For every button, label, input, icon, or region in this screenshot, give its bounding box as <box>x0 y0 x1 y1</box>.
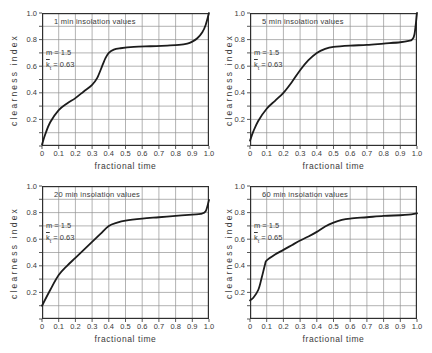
chart-annotation-60min: m = 1.5 kt = 0.65 <box>254 220 282 247</box>
chart-title-1min: 1 min insolation values <box>54 17 136 26</box>
plot-canvas-1min <box>42 13 209 146</box>
chart-60min-insolation: 60 min insolation values m = 1.5 kt = 0.… <box>216 177 432 353</box>
annotation-airmass: m = 1.5 <box>254 220 282 232</box>
y-axis-label-60min: clearness index <box>223 186 235 319</box>
plot-5min: 5 min insolation values m = 1.5 kt = 0.6… <box>250 13 417 146</box>
annotation-mean-clearness: kt = 0.63 <box>46 232 74 247</box>
x-axis-label-60min: fractional time <box>250 334 417 344</box>
k-value: = 0.63 <box>51 60 74 69</box>
k-value: = 0.63 <box>51 233 74 242</box>
chart-title-60min: 60 min insolation values <box>262 190 348 199</box>
chart-20min-insolation: 20 min insolation values m = 1.5 kt = 0.… <box>0 177 216 353</box>
x-axis-label-1min: fractional time <box>42 161 209 171</box>
y-axis-label-5min: clearness index <box>223 13 235 146</box>
chart-annotation-1min: m = 1.5 kt = 0.63 <box>46 47 74 74</box>
annotation-airmass: m = 1.5 <box>254 47 282 59</box>
annotation-mean-clearness: kt = 0.65 <box>254 232 282 247</box>
annotation-airmass: m = 1.5 <box>46 47 74 59</box>
plot-60min: 60 min insolation values m = 1.5 kt = 0.… <box>250 186 417 319</box>
insolation-cdf-figure: 1 min insolation values m = 1.5 kt = 0.6… <box>0 0 432 353</box>
x-tick-label: 1.0 <box>407 322 427 331</box>
k-value: = 0.65 <box>259 233 282 242</box>
plot-canvas-20min <box>42 186 209 319</box>
chart-annotation-5min: m = 1.5 kt = 0.63 <box>254 47 282 74</box>
plot-1min: 1 min insolation values m = 1.5 kt = 0.6… <box>42 13 209 146</box>
annotation-airmass: m = 1.5 <box>46 220 74 232</box>
k-value: = 0.63 <box>259 60 282 69</box>
annotation-mean-clearness: kt = 0.63 <box>46 59 74 74</box>
chart-annotation-20min: m = 1.5 kt = 0.63 <box>46 220 74 247</box>
chart-title-20min: 20 min insolation values <box>54 190 140 199</box>
x-tick-label: 1.0 <box>407 149 427 158</box>
chart-title-5min: 5 min insolation values <box>262 17 344 26</box>
plot-20min: 20 min insolation values m = 1.5 kt = 0.… <box>42 186 209 319</box>
plot-canvas-60min <box>250 186 417 319</box>
annotation-mean-clearness: kt = 0.63 <box>254 59 282 74</box>
y-axis-label-20min: clearness index <box>8 186 20 319</box>
plot-canvas-5min <box>250 13 417 146</box>
x-axis-label-20min: fractional time <box>42 334 209 344</box>
chart-1min-insolation: 1 min insolation values m = 1.5 kt = 0.6… <box>0 0 216 176</box>
x-axis-label-5min: fractional time <box>250 161 417 171</box>
y-axis-label-1min: clearness index <box>8 13 20 146</box>
chart-5min-insolation: 5 min insolation values m = 1.5 kt = 0.6… <box>216 0 432 176</box>
